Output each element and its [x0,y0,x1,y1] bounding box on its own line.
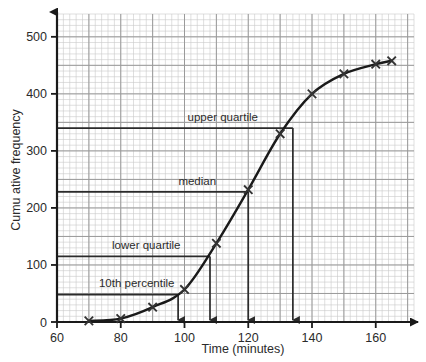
x-axis-title: Time (minutes) [202,342,285,356]
y-axis-title: Cumu ative frequency [9,108,23,230]
y-tick-label: 0 [40,316,47,330]
annotation-label-tenth-percentile: 10th percentile [99,277,174,289]
x-tick-label: 160 [365,331,386,345]
x-tick-label: 80 [114,331,128,345]
annotation-label-median: median [178,175,216,187]
x-tick-label: 140 [302,331,323,345]
y-tick-label: 100 [26,258,47,272]
x-tick-label: 100 [174,331,195,345]
y-tick-label: 300 [26,144,47,158]
annotation-label-lower-quartile: lower quartile [112,239,180,251]
x-tick-label: 60 [50,331,64,345]
y-tick-label: 200 [26,201,47,215]
y-tick-label: 500 [26,30,47,44]
y-tick-label: 400 [26,87,47,101]
chart-canvas: 6080100120140160 0100200300400500 upper … [0,0,426,362]
cumulative-frequency-chart: 6080100120140160 0100200300400500 upper … [0,0,426,362]
annotation-label-upper-quartile: upper quartile [188,111,258,123]
